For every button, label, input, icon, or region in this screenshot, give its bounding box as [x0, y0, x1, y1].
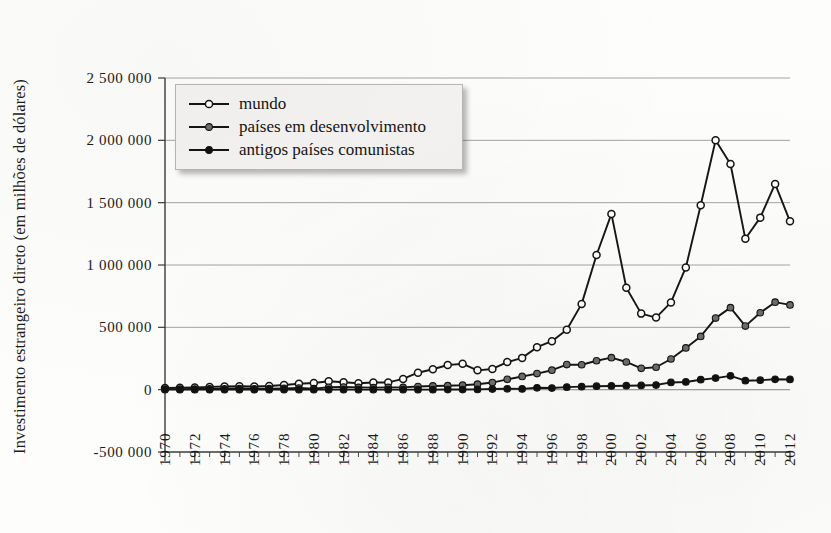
black-circle-marker: [221, 386, 228, 393]
black-circle-marker: [251, 386, 258, 393]
hollow-circle-marker: [787, 218, 794, 225]
gray-circle-marker: [683, 345, 690, 352]
hollow-circle-marker: [414, 369, 421, 376]
black-circle-marker: [444, 386, 451, 393]
hollow-circle-marker: [534, 344, 541, 351]
gray-circle-marker: [489, 379, 496, 386]
gray-circle-marker: [757, 309, 764, 316]
black-circle-marker: [638, 382, 645, 389]
hollow-circle-marker: [638, 310, 645, 317]
x-tick-label: 1990: [455, 433, 471, 466]
x-tick-label: 1976: [246, 433, 262, 466]
black-circle-marker: [534, 384, 541, 391]
black-circle-marker: [415, 386, 422, 393]
gray-circle-marker: [653, 364, 660, 371]
black-circle-marker: [266, 386, 273, 393]
hollow-circle-marker: [667, 299, 674, 306]
hollow-circle-marker: [608, 210, 615, 217]
hollow-circle-marker: [653, 314, 660, 321]
black-circle-marker: [742, 377, 749, 384]
y-tick-label: 2 000 000: [87, 132, 152, 148]
y-tick-label: -500 000: [93, 444, 152, 460]
x-tick-label: 1978: [276, 433, 292, 466]
black-circle-marker: [578, 383, 585, 390]
black-circle-marker: [191, 386, 198, 393]
black-circle-marker: [519, 386, 526, 393]
series-line-países-em-desenvolvimento: [165, 302, 790, 389]
hollow-circle-marker: [712, 137, 719, 144]
y-tick-label: 1 500 000: [87, 195, 152, 211]
black-circle-marker: [712, 375, 719, 382]
y-tick-label: 1 000 000: [87, 257, 152, 273]
x-tick-label: 1994: [514, 433, 530, 466]
hollow-circle-marker: [727, 161, 734, 168]
x-tick-label: 1984: [365, 433, 381, 466]
gray-circle-marker: [578, 361, 585, 368]
hollow-circle-marker: [429, 366, 436, 373]
black-circle-marker: [474, 386, 481, 393]
gray-circle-marker: [742, 323, 749, 330]
x-tick-label: 1986: [395, 433, 411, 466]
black-circle-marker: [563, 384, 570, 391]
hollow-circle-marker: [757, 214, 764, 221]
hollow-circle-marker: [623, 284, 630, 291]
black-circle-marker: [370, 386, 377, 393]
fdi-line-chart-figure: Investimento estrangeiro direto (em milh…: [0, 0, 831, 533]
chart-canvas: 2 500 0002 000 0001 500 0001 000 000500 …: [0, 0, 831, 533]
x-tick-label: 1982: [336, 433, 352, 466]
x-tick-label: 2004: [663, 433, 679, 466]
hollow-circle-marker: [697, 202, 704, 209]
black-circle-marker: [489, 386, 496, 393]
gray-circle-marker: [712, 315, 719, 322]
hollow-circle-marker: [772, 180, 779, 187]
black-circle-marker: [162, 386, 169, 393]
x-tick-label: 1972: [187, 433, 203, 466]
hollow-circle-marker: [578, 300, 585, 307]
series-line-mundo: [165, 140, 790, 388]
hollow-circle-marker: [742, 235, 749, 242]
black-circle-marker: [623, 382, 630, 389]
x-tick-label: 2010: [752, 433, 768, 466]
black-circle-marker: [188, 143, 230, 157]
x-tick-label: 2000: [603, 433, 619, 466]
hollow-circle-marker: [400, 375, 407, 382]
black-circle-marker: [385, 386, 392, 393]
x-tick-label: 1988: [425, 433, 441, 466]
black-circle-marker: [311, 386, 318, 393]
x-tick-label: 2002: [633, 433, 649, 466]
black-circle-marker: [697, 376, 704, 383]
gray-circle-marker: [638, 365, 645, 372]
hollow-circle-marker: [504, 359, 511, 366]
black-circle-marker: [772, 376, 779, 383]
black-circle-marker: [340, 386, 347, 393]
x-tick-label: 1980: [306, 433, 322, 466]
legend-label-mundo: mundo: [239, 95, 286, 112]
gray-circle-marker: [504, 376, 511, 383]
black-circle-marker: [653, 382, 660, 389]
hollow-circle-marker: [489, 365, 496, 372]
black-circle-marker: [757, 377, 764, 384]
black-circle-marker: [188, 143, 230, 157]
black-circle-marker: [668, 379, 675, 386]
gray-circle-marker: [787, 302, 794, 309]
hollow-circle-marker: [459, 360, 466, 367]
hollow-circle-marker: [188, 97, 230, 111]
y-tick-label: 2 500 000: [87, 70, 152, 86]
gray-circle-marker: [697, 333, 704, 340]
x-tick-label: 2008: [722, 433, 738, 466]
hollow-circle-marker: [444, 361, 451, 368]
y-tick-label: 500 000: [99, 319, 152, 335]
gray-circle-marker: [519, 373, 526, 380]
hollow-circle-marker: [682, 264, 689, 271]
chart-legend: mundo países em desenvolvimento antigos …: [175, 84, 463, 170]
x-tick-label: 2006: [693, 433, 709, 466]
x-tick-label: 1996: [544, 433, 560, 466]
black-circle-marker: [281, 386, 288, 393]
legend-item-mundo: mundo: [188, 92, 452, 115]
hollow-circle-marker: [593, 252, 600, 259]
black-circle-marker: [355, 386, 362, 393]
x-tick-label: 2012: [782, 433, 798, 466]
black-circle-marker: [608, 383, 615, 390]
black-circle-marker: [504, 385, 511, 392]
legend-item-antigos-paises-comunistas: antigos países comunistas: [188, 138, 452, 161]
